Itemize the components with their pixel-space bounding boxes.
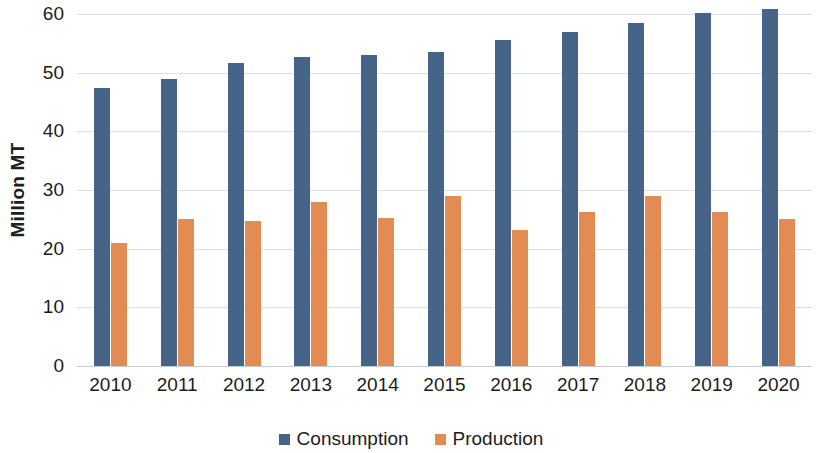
legend-label: Production xyxy=(453,428,544,450)
bar-production-2018 xyxy=(645,196,661,366)
bar-consumption-2010 xyxy=(94,88,110,366)
bar-chart: Million MT 0102030405060 201020112012201… xyxy=(0,0,822,453)
bar-production-2011 xyxy=(178,219,194,366)
x-axis-tick-label: 2015 xyxy=(411,374,478,408)
y-axis-tick-label: 20 xyxy=(43,238,64,260)
bar-consumption-2015 xyxy=(428,52,444,366)
y-axis-tick-label: 0 xyxy=(53,355,64,377)
bar-consumption-2019 xyxy=(695,13,711,366)
x-axis-tick-label: 2017 xyxy=(545,374,612,408)
legend-swatch-icon xyxy=(279,434,290,445)
bar-production-2019 xyxy=(712,212,728,366)
bar-production-2012 xyxy=(245,221,261,366)
x-axis-tick-label: 2014 xyxy=(344,374,411,408)
x-axis-tick-labels: 2010201120122013201420152016201720182019… xyxy=(77,374,812,408)
bar-production-2017 xyxy=(579,212,595,366)
y-axis-tick-label: 40 xyxy=(43,120,64,142)
bar-group xyxy=(545,14,612,366)
bar-consumption-2016 xyxy=(495,40,511,366)
bar-consumption-2018 xyxy=(628,23,644,366)
y-axis-tick-label: 30 xyxy=(43,179,64,201)
y-axis-tick-label: 10 xyxy=(43,296,64,318)
bar-production-2014 xyxy=(378,218,394,366)
bar-consumption-2012 xyxy=(228,63,244,366)
bar-consumption-2013 xyxy=(294,57,310,366)
bar-group xyxy=(277,14,344,366)
bar-production-2020 xyxy=(779,219,795,366)
x-axis-tick-label: 2020 xyxy=(745,374,812,408)
bar-group xyxy=(211,14,278,366)
y-axis-tick-label: 60 xyxy=(43,3,64,25)
legend-swatch-icon xyxy=(435,434,446,445)
legend-item-consumption[interactable]: Consumption xyxy=(279,428,409,450)
bar-production-2013 xyxy=(311,202,327,366)
chart-legend: ConsumptionProduction xyxy=(0,425,822,453)
x-axis-tick-label: 2012 xyxy=(211,374,278,408)
bar-consumption-2020 xyxy=(762,9,778,366)
plot-area xyxy=(77,14,812,366)
bar-group xyxy=(344,14,411,366)
bar-group xyxy=(77,14,144,366)
bar-production-2015 xyxy=(445,196,461,366)
bar-group xyxy=(612,14,679,366)
bar-consumption-2011 xyxy=(161,79,177,366)
y-axis-tick-label: 50 xyxy=(43,62,64,84)
bar-group xyxy=(478,14,545,366)
bar-group xyxy=(745,14,812,366)
y-axis-tick-labels: 0102030405060 xyxy=(30,0,70,380)
bar-group xyxy=(678,14,745,366)
gridline xyxy=(77,366,812,367)
legend-label: Consumption xyxy=(297,428,409,450)
bar-group xyxy=(144,14,211,366)
bar-group xyxy=(411,14,478,366)
x-axis-tick-label: 2018 xyxy=(612,374,679,408)
bar-production-2010 xyxy=(111,243,127,366)
bar-consumption-2014 xyxy=(361,55,377,366)
legend-item-production[interactable]: Production xyxy=(435,428,544,450)
y-axis-title-text: Million MT xyxy=(7,143,29,238)
bar-consumption-2017 xyxy=(562,32,578,366)
bar-production-2016 xyxy=(512,230,528,366)
x-axis-tick-label: 2013 xyxy=(277,374,344,408)
x-axis-tick-label: 2011 xyxy=(144,374,211,408)
x-axis-tick-label: 2016 xyxy=(478,374,545,408)
x-axis-tick-label: 2010 xyxy=(77,374,144,408)
x-axis-tick-label: 2019 xyxy=(678,374,745,408)
bars-layer xyxy=(77,14,812,366)
